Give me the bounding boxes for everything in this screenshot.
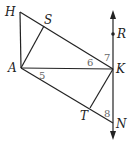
segment-AK <box>21 68 113 69</box>
label-A: A <box>7 61 17 75</box>
angle-label-7: 7 <box>104 52 110 63</box>
label-N: N <box>115 117 127 131</box>
angle-label-5: 5 <box>39 70 45 81</box>
geometry-diagram: H S R A K T N 5 6 7 8 <box>0 0 132 147</box>
label-S: S <box>44 13 52 27</box>
point-R-dot <box>111 32 115 36</box>
segment-HA <box>20 12 21 68</box>
angle-label-8: 8 <box>104 108 110 119</box>
label-R: R <box>116 27 126 41</box>
angle-label-6: 6 <box>87 57 93 68</box>
label-K: K <box>115 62 126 76</box>
segment-HK <box>20 12 113 69</box>
label-H: H <box>4 5 16 19</box>
segment-KT <box>90 69 113 108</box>
segment-AN <box>21 68 113 123</box>
arrow-down-icon <box>110 131 116 140</box>
segment-AS <box>21 26 44 68</box>
arrow-up-icon <box>110 10 116 19</box>
label-T: T <box>80 109 89 123</box>
